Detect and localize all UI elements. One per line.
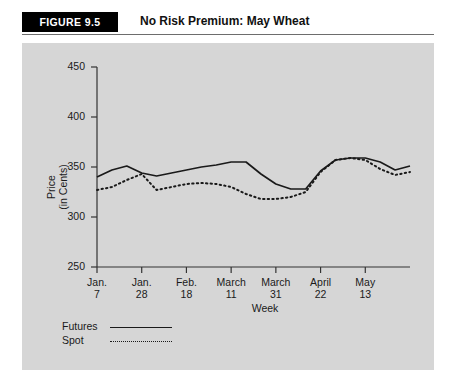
x-axis-ticks	[97, 267, 365, 273]
x-axis-title: Week	[225, 302, 305, 314]
x-axis-tick-label: May13	[335, 276, 395, 300]
y-axis-tick-label: 400	[51, 110, 85, 122]
series-line-spot	[97, 158, 410, 199]
figure-title: No Risk Premium: May Wheat	[140, 14, 309, 28]
y-axis-title: Price (in Cents)	[45, 142, 69, 232]
legend-swatch-dashed-line	[110, 341, 172, 342]
y-axis-tick-label: 250	[51, 260, 85, 272]
figure-header: FIGURE 9.5 No Risk Premium: May Wheat	[22, 12, 434, 38]
y-axis-ticks	[91, 67, 97, 267]
series-line-futures	[97, 158, 410, 189]
chart-legend: Futures Spot	[62, 320, 232, 348]
legend-label-spot: Spot	[62, 334, 84, 346]
y-axis-title-line1: Price	[45, 142, 57, 232]
legend-item-futures: Futures	[62, 320, 232, 334]
legend-item-spot: Spot	[62, 334, 232, 348]
x-tick-month: May	[335, 276, 395, 288]
legend-label-futures: Futures	[62, 320, 98, 332]
legend-swatch-solid-line	[110, 327, 172, 328]
y-axis-title-line2: (in Cents)	[57, 142, 69, 232]
x-tick-day: 13	[335, 288, 395, 300]
y-axis-tick-label: 450	[51, 60, 85, 72]
header-divider	[22, 34, 434, 35]
figure-number-badge: FIGURE 9.5	[22, 12, 118, 32]
chart-panel: 250300350400450 Jan.7Jan.28Feb.18March11…	[22, 43, 434, 370]
